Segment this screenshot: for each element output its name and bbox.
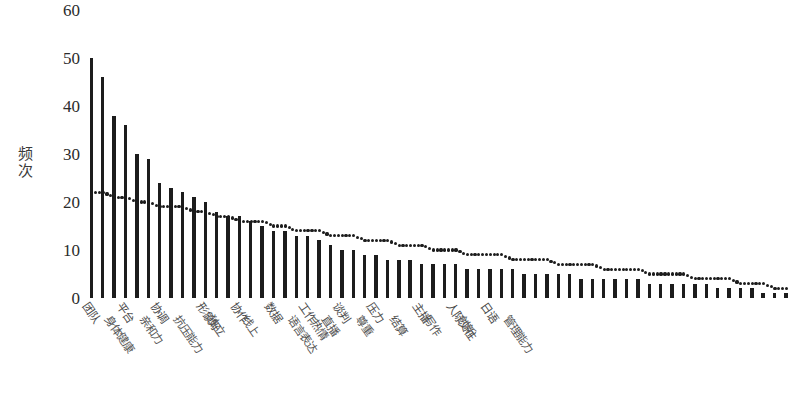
trend-dot	[671, 272, 674, 275]
trend-dot	[504, 255, 507, 258]
plot-area	[86, 10, 792, 298]
trend-dot	[724, 277, 727, 280]
trend-dot	[424, 245, 427, 248]
trend-dot	[143, 200, 146, 203]
trend-dot	[610, 268, 613, 271]
trend-dot	[212, 213, 215, 216]
trend-dot	[656, 272, 659, 275]
trend-dot	[90, 191, 93, 194]
trend-dot	[470, 253, 473, 256]
trend-dot	[360, 237, 363, 240]
trend-dot	[511, 258, 514, 261]
trend-dot	[98, 191, 101, 194]
trend-dot	[272, 224, 275, 227]
trend-dot	[269, 223, 272, 226]
trend-dot	[591, 263, 594, 266]
trend-dot	[659, 272, 662, 275]
trend-dot	[257, 220, 260, 223]
trend-dot	[561, 263, 564, 266]
trend-dot	[701, 277, 704, 280]
trend-dot	[295, 229, 298, 232]
trend-dot	[329, 234, 332, 237]
trend-dot	[174, 205, 177, 208]
trend-dot	[667, 272, 670, 275]
trend-dot	[576, 263, 579, 266]
trend-dot	[443, 248, 446, 251]
trend-dot	[405, 244, 408, 247]
trend-dot	[781, 287, 784, 290]
trend-dot	[120, 196, 123, 199]
trend-dot	[276, 224, 279, 227]
trend-dot	[401, 244, 404, 247]
trend-dot	[348, 234, 351, 237]
trend-dot	[193, 210, 196, 213]
trend-dot	[462, 252, 465, 255]
trend-dot	[436, 248, 439, 251]
trend-dot	[356, 236, 359, 239]
trend-dot	[337, 234, 340, 237]
x-tick-label: 独立	[205, 313, 227, 337]
trend-dot	[496, 253, 499, 256]
trend-dot	[344, 234, 347, 237]
trend-dot	[587, 263, 590, 266]
trend-dot	[417, 244, 420, 247]
trend-dot	[618, 268, 621, 271]
y-tick-50: 50	[34, 50, 80, 67]
trend-dot	[770, 285, 773, 288]
trend-dot	[697, 277, 700, 280]
trend-dot	[515, 258, 518, 261]
y-tick-60: 60	[34, 2, 80, 19]
trend-dot	[580, 263, 583, 266]
trend-dot	[622, 268, 625, 271]
trend-dot	[534, 258, 537, 261]
trend-dot	[128, 197, 131, 200]
x-tick-label: 线上	[239, 313, 261, 337]
trend-dot	[557, 263, 560, 266]
trend-dot	[527, 258, 530, 261]
trend-dot	[546, 258, 549, 261]
trend-dot	[204, 210, 207, 213]
x-tick-label: 抗压能力	[171, 313, 205, 355]
x-tick-label: 管理能力	[501, 313, 535, 355]
trend-dot	[584, 263, 587, 266]
trend-dot	[751, 282, 754, 285]
trend-dot	[124, 196, 127, 199]
trend-dot	[382, 239, 385, 242]
trend-dot	[477, 253, 480, 256]
trend-dot	[147, 200, 150, 203]
trend-dot	[432, 248, 435, 251]
trend-dot	[694, 277, 697, 280]
trend-dot	[500, 253, 503, 256]
trend-dot	[363, 239, 366, 242]
trend-dot	[663, 272, 666, 275]
y-axis-tick-labels: 0102030405060	[34, 0, 80, 398]
x-tick-label: 团队	[80, 300, 102, 324]
x-axis-category-labels: 团队身体健康平台亲和力协调抗压能力形象好独立协作线上数据语言表达工作热情直播谈判…	[86, 300, 792, 398]
trend-dot	[439, 248, 442, 251]
trend-dot	[185, 207, 188, 210]
trend-dot	[375, 239, 378, 242]
trend-dot	[732, 279, 735, 282]
trend-dot	[773, 287, 776, 290]
trend-dot	[181, 205, 184, 208]
trend-dot	[341, 234, 344, 237]
y-tick-0: 0	[34, 290, 80, 307]
trend-dot	[485, 253, 488, 256]
trend-dot	[132, 199, 135, 202]
trend-dot	[219, 215, 222, 218]
y-tick-10: 10	[34, 242, 80, 259]
trend-dot	[489, 253, 492, 256]
trend-dot	[162, 205, 165, 208]
trend-dot	[352, 234, 355, 237]
trend-dot	[246, 220, 249, 223]
x-tick-label: 日语	[478, 300, 500, 324]
trend-dot	[599, 266, 602, 269]
trend-dot	[523, 258, 526, 261]
trend-dot	[238, 220, 241, 223]
trend-dot	[314, 229, 317, 232]
trend-dot	[633, 268, 636, 271]
trend-dot	[318, 229, 321, 232]
trend-dot	[758, 282, 761, 285]
trend-dot	[155, 204, 158, 207]
trend-dot	[303, 229, 306, 232]
